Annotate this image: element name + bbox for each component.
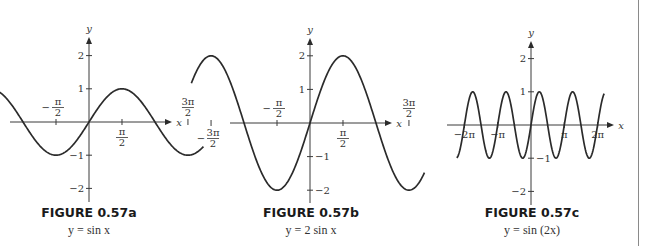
x-tick-label-numerator: 3π — [181, 96, 194, 107]
figure-b-caption: FIGURE 0.57b y = 2 sin x — [231, 206, 391, 237]
y-axis-arrow-icon — [86, 37, 92, 44]
y-tick-label: 2 — [299, 50, 305, 61]
y-tick-label: −1 — [536, 153, 551, 164]
y-tick-label: 1 — [78, 83, 84, 94]
x-tick-label-denominator: 2 — [340, 138, 346, 149]
x-axis-arrow-icon — [385, 120, 392, 126]
y-tick-label: 1 — [299, 84, 305, 95]
x-tick-label-sign: − — [263, 103, 271, 114]
x-tick-label: 2π — [591, 129, 604, 140]
y-tick-label: 1 — [520, 86, 526, 97]
figure-a-equation: y = sin x — [9, 223, 169, 237]
x-tick-label: −2π — [454, 129, 476, 140]
y-axis-label: y — [527, 27, 534, 38]
figure-c-plot: xy21−1−2−2π−ππ2π — [447, 27, 624, 205]
figure-b-equation: y = 2 sin x — [231, 223, 391, 237]
y-axis-arrow-icon — [307, 38, 313, 45]
x-tick-label-sign: − — [197, 133, 205, 144]
figure-a-title: FIGURE 0.57a — [9, 206, 169, 220]
figure-c-title: FIGURE 0.57c — [452, 206, 612, 220]
x-axis-arrow-icon — [607, 122, 614, 128]
x-tick-label-numerator: π — [276, 97, 283, 108]
x-tick-label-numerator: π — [340, 127, 347, 138]
y-axis-label: y — [85, 23, 92, 34]
x-tick-label-denominator: 2 — [185, 107, 191, 118]
x-axis-arrow-icon — [165, 119, 172, 125]
page-divider — [638, 0, 639, 246]
x-tick-label-sign: − — [42, 102, 50, 113]
x-axis-label: x — [176, 117, 182, 128]
y-tick-label: −1 — [315, 151, 330, 162]
figure-c-equation: y = sin (2x) — [452, 223, 612, 237]
figure-a-caption: FIGURE 0.57a y = sin x — [9, 206, 169, 237]
figure-b-plot: xy21−1−23π2−π2−π23π2 — [191, 24, 424, 203]
x-axis-label: x — [618, 120, 624, 131]
y-tick-label: 2 — [78, 50, 84, 61]
x-tick-label-denominator: 2 — [406, 108, 412, 119]
x-tick-label-numerator: 3π — [402, 97, 415, 108]
x-tick-label-numerator: 3π — [207, 127, 220, 138]
figure-b-title: FIGURE 0.57b — [231, 206, 391, 220]
y-axis-label: y — [306, 24, 313, 35]
y-tick-label: −2 — [315, 185, 330, 196]
y-tick-label: −2 — [69, 183, 84, 194]
x-axis-label: x — [396, 118, 402, 129]
figure-a-plot: xy21−1−23π2−π2−π23π2 — [0, 23, 203, 202]
y-tick-label: −1 — [69, 150, 84, 161]
x-tick-label-denominator: 2 — [276, 108, 282, 119]
figure-c-caption: FIGURE 0.57c y = sin (2x) — [452, 206, 612, 237]
x-tick-label-numerator: π — [55, 96, 62, 107]
y-tick-label: 2 — [520, 53, 526, 64]
x-tick-label-numerator: π — [119, 126, 126, 137]
x-tick-label-denominator: 2 — [55, 107, 61, 118]
x-tick-label: −π — [490, 129, 505, 140]
x-tick-label-denominator: 2 — [119, 137, 125, 148]
y-tick-label: −2 — [511, 186, 526, 197]
y-axis-arrow-icon — [528, 41, 534, 48]
x-tick-label-denominator: 2 — [210, 138, 216, 149]
